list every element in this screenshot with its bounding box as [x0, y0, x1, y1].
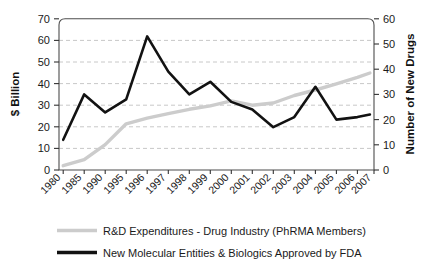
y2tick-label-40: 40	[383, 63, 395, 75]
right-axis-ticks	[374, 19, 379, 170]
left-axis-title: $ Billion	[9, 72, 21, 117]
ytick-label-40: 40	[38, 78, 50, 90]
y2tick-label-10: 10	[383, 139, 395, 151]
dual-axis-line-chart: 70 60 50 40 30 20 10 0 60 50 40 30 20 10…	[0, 0, 428, 269]
xtick-label-1980: 1980	[38, 171, 63, 196]
y2tick-label-0: 0	[383, 164, 389, 176]
xtick-label-2007: 2007	[348, 171, 373, 196]
ytick-label-0: 0	[44, 164, 50, 176]
xtick-label-1997: 1997	[143, 171, 168, 196]
xtick-label-2001: 2001	[227, 171, 252, 196]
left-axis-ticks	[54, 19, 59, 170]
ytick-label-50: 50	[38, 56, 50, 68]
y2tick-label-30: 30	[383, 88, 395, 100]
xtick-label-1985: 1985	[59, 171, 84, 196]
ytick-label-60: 60	[38, 34, 50, 46]
y2tick-label-60: 60	[383, 13, 395, 25]
xtick-label-2004: 2004	[290, 171, 315, 196]
legend-label-nme-approvals: New Molecular Entities & Biologics Appro…	[103, 247, 362, 259]
x-axis-labels: 1980 1985 1990 1995 1996 1997 1998 1999 …	[38, 171, 374, 196]
legend-label-rd-expenditures: R&D Expenditures - Drug Industry (PhRMA …	[103, 225, 366, 237]
ytick-label-20: 20	[38, 121, 50, 133]
xtick-label-2005: 2005	[311, 171, 336, 196]
xtick-label-1995: 1995	[101, 171, 126, 196]
plot-area-border	[59, 19, 374, 170]
xtick-label-1999: 1999	[185, 171, 210, 196]
ytick-label-70: 70	[38, 13, 50, 25]
xtick-label-1990: 1990	[80, 171, 105, 196]
xtick-label-2003: 2003	[269, 171, 294, 196]
right-axis-title: Number of New Drugs	[404, 34, 416, 155]
ytick-label-10: 10	[38, 142, 50, 154]
xtick-label-1996: 1996	[122, 171, 147, 196]
gridlines	[59, 40, 374, 148]
y2tick-label-20: 20	[383, 114, 395, 126]
y2tick-label-50: 50	[383, 38, 395, 50]
chart-figure: 70 60 50 40 30 20 10 0 60 50 40 30 20 10…	[0, 0, 428, 269]
xtick-label-1998: 1998	[164, 171, 189, 196]
xtick-label-2002: 2002	[248, 171, 273, 196]
ytick-label-30: 30	[38, 99, 50, 111]
xtick-label-2000: 2000	[206, 171, 231, 196]
chart-legend: R&D Expenditures - Drug Industry (PhRMA …	[57, 225, 366, 259]
